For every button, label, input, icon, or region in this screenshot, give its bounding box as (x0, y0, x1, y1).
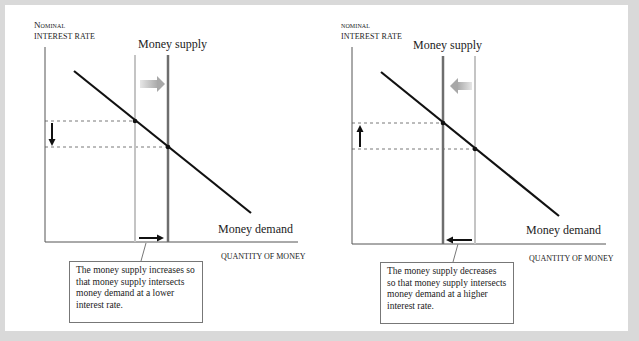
callout-box: The money supply decreases so that money… (380, 262, 514, 324)
money-supply-label: Money supply (413, 38, 482, 53)
new-equilibrium-point (166, 145, 171, 150)
old-equilibrium-point (133, 119, 138, 124)
x-axis-title-text: Quantity of money (221, 252, 306, 261)
old-equilibrium-point (473, 147, 478, 152)
y-axis-title-line2: interest rate (341, 31, 402, 42)
y-axis-title-line2: interest rate (34, 31, 95, 42)
money-demand-label: Money demand (218, 222, 293, 237)
money-demand-label: Money demand (526, 223, 601, 238)
x-axis-title: Quantity of money (529, 254, 614, 263)
y-axis-title: Nominal interest rate (341, 20, 402, 42)
rate-down-arrow-icon (49, 123, 56, 146)
money-supply-label: Money supply (138, 37, 207, 52)
callout-leader (141, 243, 146, 261)
quantity-left-arrow-icon (446, 237, 472, 244)
y-axis-title-line1: Nominal (341, 20, 402, 31)
new-equilibrium-point (441, 121, 446, 126)
y-axis-title: Nominal interest rate (34, 20, 95, 42)
money-demand-line (381, 72, 559, 216)
rate-up-arrow-icon (357, 125, 364, 147)
money-demand-line (74, 71, 251, 213)
x-axis-title-text: Quantity of money (529, 254, 614, 263)
shift-right-arrow-icon (140, 76, 165, 92)
shift-left-arrow-icon (450, 78, 472, 94)
callout-leader (453, 244, 458, 262)
x-axis-title: Quantity of money (221, 252, 306, 261)
y-axis-title-line1: Nominal (34, 20, 95, 31)
callout-box: The money supply increases so that money… (69, 261, 203, 323)
quantity-right-arrow-icon (139, 235, 164, 242)
